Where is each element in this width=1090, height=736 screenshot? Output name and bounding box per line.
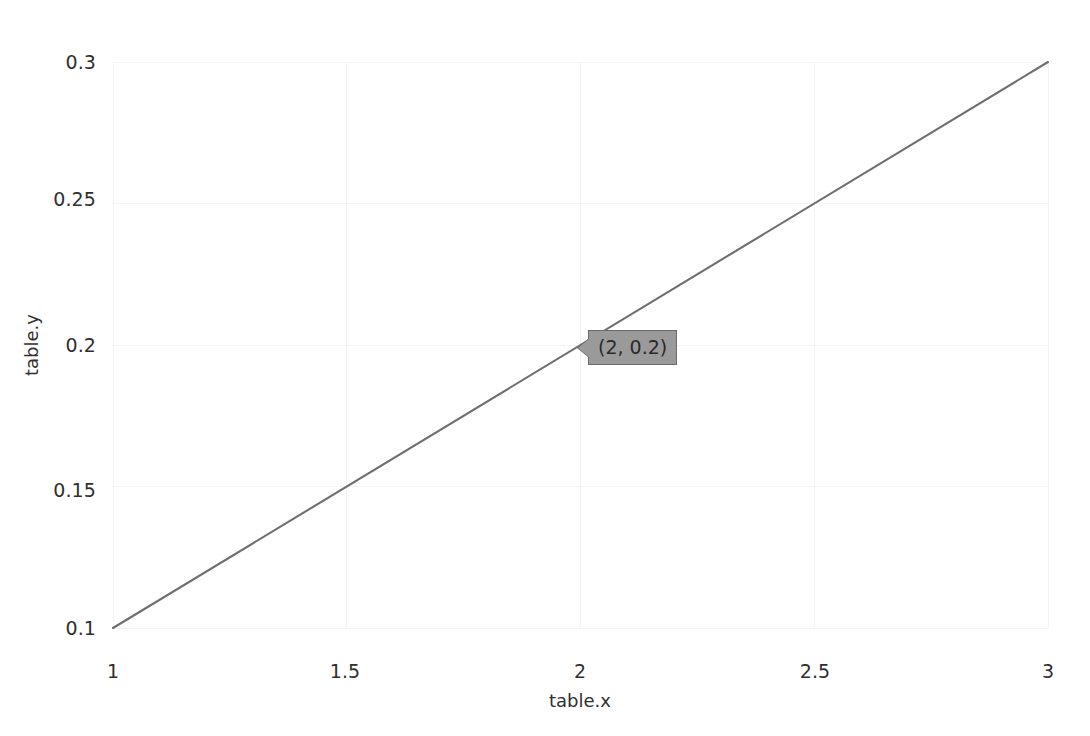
x-tick-label: 1 [107,660,119,682]
x-tick-label: 2 [574,660,586,682]
callout-arrow-icon [578,339,589,357]
x-tick-label: 1.5 [330,660,361,682]
y-tick-label: 0.15 [41,479,96,501]
data-point-tooltip-text: (2, 0.2) [598,338,667,357]
x-axis-title: table.x [549,690,611,711]
data-point-tooltip[interactable]: (2, 0.2) [588,330,677,365]
y-axis-title: table.y [21,285,42,405]
y-tick-label: 0.25 [41,188,96,210]
x-tick-label: 3 [1042,660,1054,682]
y-tick-label: 0.2 [41,334,96,356]
y-tick-label: 0.1 [41,617,96,639]
x-tick-label: 2.5 [800,660,831,682]
line-chart: 0.3 0.25 0.2 0.15 0.1 1 1.5 2 2.5 3 tabl… [0,0,1090,736]
y-tick-label: 0.3 [41,51,96,73]
